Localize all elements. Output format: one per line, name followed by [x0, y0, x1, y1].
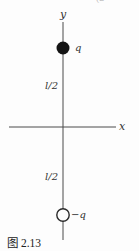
lower-distance-label: l/2 — [40, 171, 58, 183]
x-axis-label: x — [119, 121, 125, 133]
dipole-figure: (2 y x q −q l/2 l/2 图 2.13 — [0, 0, 139, 251]
y-axis-label: y — [57, 9, 69, 21]
positive-charge-dot — [57, 42, 70, 55]
negative-charge-label: −q — [71, 209, 86, 221]
negative-charge-circle — [57, 209, 69, 221]
upper-distance-label: l/2 — [40, 80, 58, 92]
figure-caption: 图 2.13 — [7, 236, 41, 250]
positive-charge-label: q — [75, 42, 81, 54]
